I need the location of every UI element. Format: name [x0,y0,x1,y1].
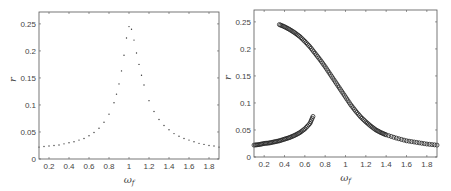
data-point [113,102,114,103]
x-tick-label: 0.6 [299,160,311,169]
data-point [168,129,169,130]
y-tick-label: 0.05 [20,128,36,137]
data-point [178,136,179,137]
y-tick-label: 0.1 [240,99,252,108]
x-tick-label: 1 [127,162,132,171]
x-tick-label: 0.6 [83,162,95,171]
x-tick-label: 0.8 [103,162,115,171]
data-point [116,93,117,94]
y-tick-label: 0.2 [25,47,37,56]
x-tick-label: 1.2 [360,160,372,169]
y-tick-label: 0.25 [235,18,251,27]
data-point [68,142,69,143]
data-point [432,143,436,147]
x-tick-label: 1.8 [421,160,433,169]
data-point [158,119,159,120]
x-axis-label: ωf [124,174,136,187]
y-tick-label: 0.15 [235,72,251,81]
axes-box [254,10,437,157]
data-point [133,39,134,40]
data-point [392,135,396,139]
x-tick-label: 1 [343,160,348,169]
x-tick-label: 1.6 [183,162,195,171]
data-point [128,26,129,27]
data-point [131,29,132,30]
data-point [126,37,127,38]
y-tick-label: 0.2 [240,45,252,54]
y-tick-label: 0 [32,155,37,164]
data-point [183,138,184,139]
data-series [38,26,219,148]
data-series [252,23,439,148]
x-tick-label: 0.2 [259,160,271,169]
data-point [98,127,99,128]
axes-box [39,12,219,159]
data-point [103,122,104,123]
y-tick-label: 0.05 [235,126,251,135]
data-point [78,139,79,140]
data-point [141,75,142,76]
x-tick-label: 1.8 [203,162,215,171]
x-tick-label: 1.4 [381,160,393,169]
x-tick-label: 1.4 [163,162,175,171]
data-point [402,138,406,142]
data-point [148,100,149,101]
data-point [48,145,49,146]
data-point [389,134,393,138]
data-point [83,138,84,139]
data-point [123,55,124,56]
data-point [412,140,416,144]
data-point [387,134,391,138]
data-point [108,113,109,114]
data-point [63,143,64,144]
data-point [88,135,89,136]
x-tick-label: 1.2 [143,162,155,171]
data-point [143,84,144,85]
y-tick-label: 0.15 [20,74,36,83]
data-point [173,133,174,134]
data-point [93,132,94,133]
x-axis-label: ωf [340,172,352,185]
y-tick-label: 0.25 [20,20,36,29]
data-point [58,144,59,145]
right-plot: 0.20.40.60.811.21.41.61.800.050.10.150.2… [222,10,439,185]
left-plot: 0.20.40.60.811.21.41.61.800.050.10.150.2… [7,12,220,187]
data-point [121,70,122,71]
data-point [73,141,74,142]
data-point [198,143,199,144]
data-point [422,142,426,146]
y-tick-label: 0 [247,153,252,162]
figure: 0.20.40.60.811.21.41.61.800.050.10.150.2… [0,0,451,191]
data-point [138,64,139,65]
x-tick-label: 0.8 [320,160,332,169]
data-point [153,111,154,112]
x-tick-label: 0.4 [63,162,75,171]
data-point [118,83,119,84]
data-point [53,145,54,146]
y-tick-label: 0.1 [25,101,37,110]
x-tick-label: 0.2 [43,162,55,171]
data-point [213,145,214,146]
data-point [43,146,44,147]
data-point [208,145,209,146]
data-point [193,141,194,142]
data-point [188,139,189,140]
y-axis-label: r [222,74,233,80]
y-axis-label: r [7,76,18,82]
x-tick-label: 1.6 [401,160,413,169]
data-point [136,52,137,53]
data-point [203,144,204,145]
x-tick-label: 0.4 [279,160,291,169]
data-point [163,125,164,126]
